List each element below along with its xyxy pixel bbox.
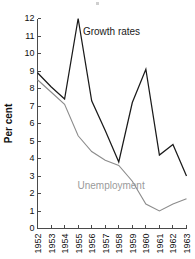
x-tick-label: 1954 xyxy=(60,234,70,254)
y-tick-label: 3 xyxy=(29,171,34,181)
y-tick-label: 8 xyxy=(29,83,34,93)
y-tick-label: 6 xyxy=(29,118,34,128)
x-tick-label: 1955 xyxy=(74,234,84,254)
y-tick-label: 11 xyxy=(25,31,34,41)
chart-figure: 0123456789101112 19521953195419551956195… xyxy=(0,0,195,259)
x-tick-label: 1952 xyxy=(33,234,43,254)
x-tick-label: 1956 xyxy=(87,234,97,254)
scan-artifact xyxy=(96,2,99,5)
y-tick-label: 10 xyxy=(24,48,34,58)
y-tick-label: 5 xyxy=(29,136,34,146)
y-axis-title: Per cent xyxy=(3,103,14,143)
annotation-label: Growth rates xyxy=(83,26,140,37)
y-tick-label: 1 xyxy=(29,206,34,216)
y-tick-label: 2 xyxy=(29,188,34,198)
x-tick-label: 1961 xyxy=(155,234,165,254)
x-tick-label: 1958 xyxy=(114,234,124,254)
x-tick-label: 1960 xyxy=(141,234,151,254)
y-tick-label: 12 xyxy=(24,13,34,23)
line-chart: 0123456789101112 19521953195419551956195… xyxy=(0,0,195,259)
x-tick-label: 1959 xyxy=(128,234,138,254)
x-tick-label: 1963 xyxy=(182,234,192,254)
x-tick-label: 1962 xyxy=(168,234,178,254)
x-tick-label: 1953 xyxy=(47,234,57,254)
annotation-label: Unemployment xyxy=(77,180,144,191)
x-tick-label: 1957 xyxy=(101,234,111,254)
y-tick-label: 9 xyxy=(29,66,34,76)
y-tick-label: 4 xyxy=(29,153,34,163)
y-tick-label: 0 xyxy=(29,223,34,233)
y-tick-label: 7 xyxy=(29,101,34,111)
